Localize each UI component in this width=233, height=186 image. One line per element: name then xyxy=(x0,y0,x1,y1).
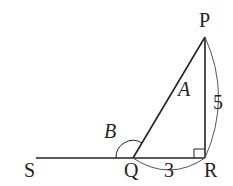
length-label-pr: 5 xyxy=(213,91,223,113)
angle-label-a: A xyxy=(176,78,191,100)
point-label-p: P xyxy=(199,9,210,31)
angle-label-b: B xyxy=(104,120,116,142)
length-label-qr: 3 xyxy=(164,159,174,181)
triangle-diagram: P S Q R A B 5 3 xyxy=(0,0,233,186)
point-label-q: Q xyxy=(124,159,139,181)
right-angle-marker xyxy=(194,149,205,158)
point-label-r: R xyxy=(204,159,218,181)
point-label-s: S xyxy=(24,159,35,181)
segment-pq xyxy=(133,37,205,158)
diagram-canvas: P S Q R A B 5 3 xyxy=(0,0,233,186)
